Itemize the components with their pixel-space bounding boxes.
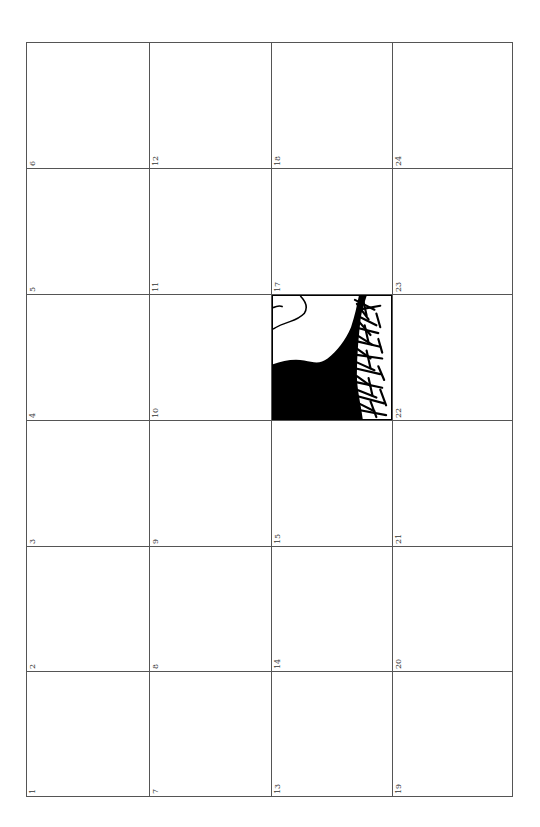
grid-tile[interactable]: 2 <box>27 547 150 672</box>
tile-number: 1 <box>28 789 37 794</box>
tile-number: 13 <box>273 784 282 794</box>
grid-tile-active[interactable] <box>272 295 393 421</box>
tile-number: 14 <box>273 659 282 669</box>
grid-tile[interactable]: 3 <box>27 421 150 547</box>
tile-number: 21 <box>394 534 403 544</box>
grid-tile[interactable]: 4 <box>27 295 150 421</box>
tile-number: 23 <box>394 282 403 292</box>
grid-tile[interactable]: 18 <box>272 43 393 169</box>
grid-tile[interactable]: 10 <box>150 295 272 421</box>
map-index-grid: 6 12 18 24 5 11 17 23 4 10 <box>26 42 513 797</box>
grid-tile[interactable]: 6 <box>27 43 150 169</box>
tile-number: 15 <box>273 534 282 544</box>
grid-tile[interactable]: 1 <box>27 672 150 796</box>
tile-number: 11 <box>151 282 160 292</box>
grid-tile[interactable]: 12 <box>150 43 272 169</box>
tile-number: 17 <box>273 282 282 292</box>
grid-tile[interactable]: 20 <box>393 547 513 672</box>
grid-tile[interactable]: 22 <box>393 295 513 421</box>
tile-number: 9 <box>151 539 160 544</box>
grid-tile[interactable]: 17 <box>272 169 393 295</box>
tile-number: 5 <box>28 287 37 292</box>
tile-number: 3 <box>28 539 37 544</box>
grid-tile[interactable]: 23 <box>393 169 513 295</box>
grid-tile[interactable]: 7 <box>150 672 272 796</box>
tile-number: 8 <box>151 664 160 669</box>
map-fragment-graphic <box>273 296 391 419</box>
grid-tile[interactable]: 13 <box>272 672 393 796</box>
map-tile-image <box>272 295 392 420</box>
tile-number: 10 <box>151 408 160 418</box>
grid-tile[interactable]: 9 <box>150 421 272 547</box>
tile-number: 7 <box>151 789 160 794</box>
grid-tile[interactable]: 21 <box>393 421 513 547</box>
tile-number: 22 <box>394 408 403 418</box>
grid-tile[interactable]: 14 <box>272 547 393 672</box>
tile-number: 18 <box>273 156 282 166</box>
tile-number: 2 <box>28 664 37 669</box>
grid-tile[interactable]: 24 <box>393 43 513 169</box>
grid-tile[interactable]: 19 <box>393 672 513 796</box>
tile-number: 6 <box>28 161 37 166</box>
tile-number: 24 <box>394 156 403 166</box>
grid-tile[interactable]: 11 <box>150 169 272 295</box>
tile-number: 12 <box>151 156 160 166</box>
tile-number: 19 <box>394 784 403 794</box>
grid-tile[interactable]: 15 <box>272 421 393 547</box>
tile-number: 4 <box>28 413 37 418</box>
grid-tile[interactable]: 8 <box>150 547 272 672</box>
tile-number: 20 <box>394 659 403 669</box>
grid-tile[interactable]: 5 <box>27 169 150 295</box>
